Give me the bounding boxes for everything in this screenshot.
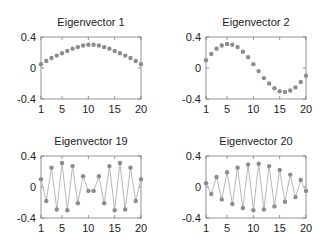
data-point-marker bbox=[65, 49, 69, 53]
x-tick-label: 5 bbox=[59, 222, 65, 234]
data-point-marker bbox=[277, 168, 281, 172]
x-tick-label: 15 bbox=[109, 222, 121, 234]
data-point-marker bbox=[246, 55, 250, 59]
subplot-title: Eigenvector 20 bbox=[219, 135, 292, 147]
subplot-2: Eigenvector 20.40-0.415101520 bbox=[182, 16, 312, 115]
x-tick-label: 20 bbox=[300, 222, 312, 234]
data-point-marker bbox=[39, 62, 43, 66]
y-tick-label: -0.4 bbox=[182, 212, 201, 224]
x-tick-label: 10 bbox=[247, 103, 259, 115]
x-tick-label: 1 bbox=[38, 103, 44, 115]
data-point-marker bbox=[225, 170, 229, 174]
data-point-marker bbox=[225, 42, 229, 46]
data-point-marker bbox=[102, 201, 106, 205]
data-point-marker bbox=[107, 164, 111, 168]
data-point-marker bbox=[118, 51, 122, 55]
y-tick-label: 0 bbox=[195, 181, 201, 193]
data-point-marker bbox=[112, 49, 116, 53]
data-point-marker bbox=[44, 59, 48, 63]
data-point-marker bbox=[209, 192, 213, 196]
data-point-marker bbox=[304, 189, 308, 193]
data-point-marker bbox=[241, 206, 245, 210]
data-point-marker bbox=[288, 88, 292, 92]
y-tick-label: -0.4 bbox=[17, 93, 36, 105]
data-point-marker bbox=[81, 43, 85, 47]
y-tick-label: 0.4 bbox=[21, 31, 36, 43]
data-point-marker bbox=[256, 162, 260, 166]
x-tick-label: 1 bbox=[203, 103, 209, 115]
data-point-marker bbox=[107, 46, 111, 50]
y-tick-label: 0.4 bbox=[21, 150, 36, 162]
data-point-marker bbox=[283, 200, 287, 204]
data-point-marker bbox=[60, 51, 64, 55]
data-point-marker bbox=[304, 74, 308, 78]
data-point-marker bbox=[246, 162, 250, 166]
data-point-marker bbox=[112, 208, 116, 212]
data-point-marker bbox=[139, 62, 143, 66]
data-point-marker bbox=[118, 161, 122, 165]
data-point-marker bbox=[283, 90, 287, 94]
data-point-marker bbox=[214, 175, 218, 179]
data-point-marker bbox=[293, 195, 297, 199]
data-point-marker bbox=[220, 43, 224, 47]
data-point-marker bbox=[44, 199, 48, 203]
data-point-marker bbox=[49, 165, 53, 169]
data-point-marker bbox=[81, 174, 85, 178]
x-tick-label: 20 bbox=[135, 103, 147, 115]
y-tick-label: 0 bbox=[30, 181, 36, 193]
data-point-marker bbox=[235, 165, 239, 169]
data-point-marker bbox=[70, 46, 74, 50]
subplot-3: Eigenvector 190.40-0.415101520 bbox=[17, 135, 147, 234]
data-point-marker bbox=[39, 177, 43, 181]
subplot-4: Eigenvector 200.40-0.415101520 bbox=[182, 135, 312, 234]
data-point-marker bbox=[204, 58, 208, 62]
x-tick-label: 15 bbox=[274, 222, 286, 234]
x-tick-label: 20 bbox=[300, 103, 312, 115]
data-point-marker bbox=[128, 165, 132, 169]
data-point-marker bbox=[102, 45, 106, 49]
data-point-marker bbox=[262, 207, 266, 211]
y-tick-label: -0.4 bbox=[182, 93, 201, 105]
data-point-marker bbox=[251, 208, 255, 212]
data-point-marker bbox=[272, 86, 276, 90]
data-point-marker bbox=[209, 52, 213, 56]
subplot-title: Eigenvector 1 bbox=[57, 16, 124, 28]
subplot-1: Eigenvector 10.40-0.415101520 bbox=[17, 16, 147, 115]
series-line bbox=[206, 164, 306, 211]
data-point-marker bbox=[123, 207, 127, 211]
series-line bbox=[41, 163, 141, 210]
data-point-marker bbox=[251, 62, 255, 66]
data-point-marker bbox=[97, 174, 101, 178]
data-point-marker bbox=[267, 81, 271, 85]
y-tick-label: 0.4 bbox=[186, 150, 201, 162]
data-point-marker bbox=[134, 199, 138, 203]
data-point-marker bbox=[65, 208, 69, 212]
data-point-marker bbox=[91, 43, 95, 47]
data-point-marker bbox=[76, 45, 80, 49]
axes-frame bbox=[41, 37, 141, 99]
x-tick-label: 5 bbox=[224, 103, 230, 115]
y-tick-label: 0 bbox=[195, 62, 201, 74]
data-point-marker bbox=[60, 161, 64, 165]
data-point-marker bbox=[230, 202, 234, 206]
data-point-marker bbox=[272, 204, 276, 208]
data-point-marker bbox=[123, 53, 127, 57]
x-tick-label: 1 bbox=[203, 222, 209, 234]
data-point-marker bbox=[97, 43, 101, 47]
data-point-marker bbox=[128, 56, 132, 60]
data-point-marker bbox=[204, 181, 208, 185]
data-point-marker bbox=[235, 45, 239, 49]
data-point-marker bbox=[277, 89, 281, 93]
data-point-marker bbox=[86, 43, 90, 47]
x-tick-label: 20 bbox=[135, 222, 147, 234]
x-tick-label: 15 bbox=[274, 103, 286, 115]
x-tick-label: 10 bbox=[82, 103, 94, 115]
data-point-marker bbox=[55, 53, 59, 57]
y-tick-label: 0 bbox=[30, 62, 36, 74]
x-tick-label: 10 bbox=[247, 222, 259, 234]
data-point-marker bbox=[267, 164, 271, 168]
data-point-marker bbox=[86, 189, 90, 193]
x-tick-label: 1 bbox=[38, 222, 44, 234]
x-tick-label: 5 bbox=[224, 222, 230, 234]
data-point-marker bbox=[230, 43, 234, 47]
